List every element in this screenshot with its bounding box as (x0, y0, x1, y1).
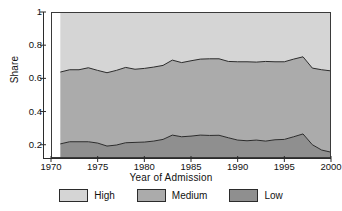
legend-swatch-icon (59, 189, 88, 202)
legend-label: Low (264, 190, 282, 201)
x-tick-label: 1985 (171, 161, 211, 172)
x-tick-label: 1975 (78, 161, 118, 172)
chart-legend: HighMediumLow (0, 189, 342, 202)
x-tick-label: 1970 (31, 161, 71, 172)
legend-item-high[interactable]: High (59, 189, 115, 202)
x-axis-title: Year of Admission (0, 172, 342, 183)
x-tick-label: 1990 (218, 161, 258, 172)
legend-label: High (94, 190, 115, 201)
plot-area (0, 0, 342, 176)
x-tick-label: 2000 (311, 161, 342, 172)
legend-item-low[interactable]: Low (229, 189, 282, 202)
legend-label: Medium (172, 190, 208, 201)
x-tick-label: 1980 (124, 161, 164, 172)
x-tick-label: 1995 (264, 161, 304, 172)
legend-item-medium[interactable]: Medium (137, 189, 208, 202)
legend-swatch-icon (137, 189, 166, 202)
legend-swatch-icon (229, 189, 258, 202)
chart-figure: Share 0.20.40.60.81 19701975198019851990… (0, 0, 342, 211)
